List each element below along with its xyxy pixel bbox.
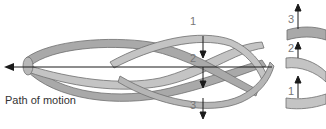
path-of-motion-caption: Path of motion xyxy=(5,95,76,106)
up-arrow-icon xyxy=(295,4,301,11)
segment-3 xyxy=(287,27,326,40)
label-left-3: 3 xyxy=(190,100,196,111)
up-arrows xyxy=(295,4,301,98)
down-arrow-icon xyxy=(200,112,206,119)
cell-head xyxy=(23,57,33,75)
up-arrow-icon xyxy=(295,76,301,83)
label-left-1: 1 xyxy=(190,16,196,27)
label-right-1: 1 xyxy=(288,86,294,97)
label-right-3: 3 xyxy=(288,14,294,25)
label-left-2: 2 xyxy=(190,53,196,64)
label-right-2: 2 xyxy=(288,43,294,54)
flagellum-wave-diagram xyxy=(0,0,326,129)
left-arrow-icon xyxy=(4,63,14,71)
segment-2 xyxy=(286,58,326,82)
up-arrow-icon xyxy=(295,42,301,49)
down-arrow-icon xyxy=(200,51,206,58)
